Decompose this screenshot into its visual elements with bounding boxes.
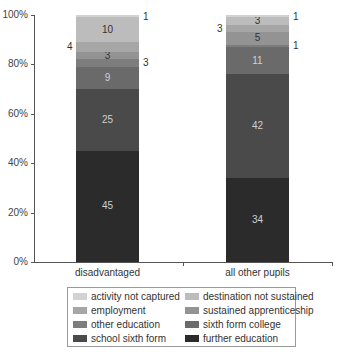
data-label: 10: [76, 24, 139, 35]
y-tick-label: 20%: [0, 207, 28, 218]
x-category-label: disadvantaged: [48, 267, 168, 278]
data-label: 42: [226, 120, 289, 131]
data-label: 5: [226, 32, 289, 43]
legend-swatch: [73, 321, 87, 328]
data-label: 3: [217, 23, 223, 34]
y-tick: [31, 163, 35, 164]
bar-all-other-pupils: 34421153: [226, 15, 289, 262]
legend-swatch: [73, 307, 87, 314]
legend-label: sustained apprenticeship: [203, 305, 314, 316]
y-tick-label: 40%: [0, 157, 28, 168]
data-label: 11: [226, 55, 289, 66]
legend-label: other education: [91, 319, 160, 330]
bar-segment-other-education: [226, 45, 289, 47]
bar-disadvantaged: 45259310: [76, 15, 139, 262]
legend-item: destination not sustained: [185, 291, 314, 303]
y-tick: [31, 15, 35, 16]
legend-item: employment: [73, 305, 145, 317]
bar-segment-activity-not-captured: [76, 15, 139, 17]
y-axis: [34, 15, 35, 263]
y-tick-label: 0%: [0, 256, 28, 267]
data-label: 1: [293, 40, 299, 51]
y-tick: [31, 262, 35, 263]
y-tick-label: 80%: [0, 58, 28, 69]
bar-segment-employment: [76, 42, 139, 52]
legend-swatch: [73, 335, 87, 342]
legend-label: employment: [91, 305, 145, 316]
legend-label: activity not captured: [91, 291, 180, 302]
legend-item: school sixth form: [73, 333, 166, 345]
legend-item: other education: [73, 319, 160, 331]
x-tick: [183, 262, 184, 266]
data-label: 34: [226, 214, 289, 225]
legend-swatch: [185, 321, 199, 328]
legend-item: sixth form college: [185, 319, 281, 331]
legend-label: further education: [203, 333, 278, 344]
data-label: 4: [67, 41, 73, 52]
legend-item: sustained apprenticeship: [185, 305, 314, 317]
legend-label: destination not sustained: [203, 291, 314, 302]
legend-swatch: [185, 335, 199, 342]
x-tick: [332, 262, 333, 266]
y-tick: [31, 114, 35, 115]
data-label: 45: [76, 200, 139, 211]
data-label: 1: [293, 11, 299, 22]
data-label: 25: [76, 114, 139, 125]
data-label: 9: [76, 72, 139, 83]
legend-label: sixth form college: [203, 319, 281, 330]
y-tick: [31, 64, 35, 65]
legend-item: activity not captured: [73, 291, 180, 303]
y-tick: [31, 213, 35, 214]
bar-segment-activity-not-captured: [226, 15, 289, 17]
x-category-label: all other pupils: [198, 267, 318, 278]
data-label: 3: [143, 57, 149, 68]
y-tick-label: 60%: [0, 108, 28, 119]
legend-swatch: [73, 293, 87, 300]
data-label: 1: [143, 11, 149, 22]
stacked-bar-chart: 0%20%40%60%80%100% 344211534525931034113…: [0, 0, 340, 354]
y-tick-label: 100%: [0, 9, 28, 20]
legend-swatch: [185, 293, 199, 300]
legend-item: further education: [185, 333, 278, 345]
legend-label: school sixth form: [91, 333, 166, 344]
legend: activity not captureddestination not sus…: [67, 287, 296, 347]
legend-swatch: [185, 307, 199, 314]
